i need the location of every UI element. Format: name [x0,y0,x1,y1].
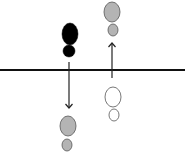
up-arrow-icon [109,43,116,78]
down-arrow-icon [66,62,73,108]
large-ellipse [60,116,76,136]
small-ellipse [108,24,118,36]
gray-cell-bottom-left [60,116,76,151]
white-cell-bottom-right [105,87,121,121]
small-ellipse [109,109,119,121]
large-ellipse [104,2,120,22]
gray-cell-top-right [104,2,120,36]
large-ellipse [62,23,78,45]
diagram-canvas [0,0,187,156]
black-cell-top-left [62,23,78,57]
small-ellipse [63,45,75,57]
small-ellipse [62,139,72,151]
large-ellipse [105,87,121,107]
